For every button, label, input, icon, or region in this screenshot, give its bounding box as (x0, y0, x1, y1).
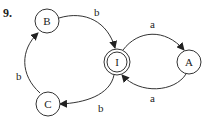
node-label: I (115, 56, 119, 68)
node-label: A (185, 56, 193, 68)
edge-i-to-c: b (60, 75, 114, 114)
node-label: B (43, 15, 50, 27)
node-label: C (44, 98, 51, 110)
edge-b-to-i: b (59, 6, 115, 48)
edge-a-to-i: a (122, 74, 186, 104)
edge-label: b (16, 70, 22, 82)
edge-label: a (150, 18, 155, 30)
state-diagram: 9. b a a b b B I A C (0, 0, 206, 118)
node-c: C (36, 92, 60, 116)
node-a: A (177, 50, 201, 74)
node-i-accepting: I (104, 49, 130, 75)
node-b: B (35, 9, 59, 33)
edge-label: b (94, 6, 100, 18)
problem-number: 9. (3, 6, 12, 20)
edge-label: a (150, 92, 155, 104)
edge-i-to-a: a (123, 18, 184, 50)
edge-label: b (98, 102, 104, 114)
edge-c-to-b: b (16, 33, 40, 93)
